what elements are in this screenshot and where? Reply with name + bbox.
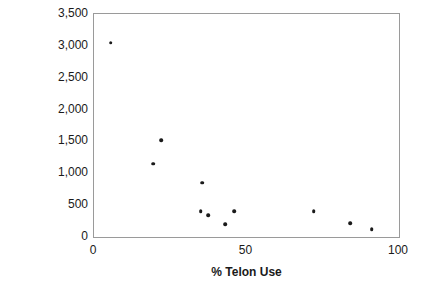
data-point (159, 138, 163, 142)
data-point (370, 227, 374, 231)
x-tick-label: 100 (388, 243, 408, 257)
x-tick-label: 50 (239, 243, 252, 257)
scatter-chart: Effort (hours) 05001,0001,5002,0002,5003… (0, 0, 428, 298)
x-axis-title: % Telon Use (93, 265, 400, 279)
data-point (223, 222, 227, 226)
data-point (109, 41, 113, 45)
y-tick-label: 2,500 (30, 71, 88, 83)
y-tick-label: 0 (30, 230, 88, 242)
data-point (207, 214, 211, 218)
data-point (152, 162, 156, 166)
y-tick-label: 3,500 (30, 7, 88, 19)
y-tick-label: 1,500 (30, 134, 88, 146)
data-point (200, 181, 204, 185)
data-point (312, 209, 316, 213)
y-axis-title: Effort (hours) (0, 0, 22, 298)
data-point (199, 209, 203, 213)
plot-area (93, 13, 400, 238)
data-point (233, 209, 237, 213)
x-tick-label: 0 (90, 243, 97, 257)
y-tick-label: 500 (30, 198, 88, 210)
data-point (348, 222, 352, 226)
y-tick-label: 2,000 (30, 103, 88, 115)
y-tick-label: 3,000 (30, 39, 88, 51)
y-tick-label: 1,000 (30, 166, 88, 178)
x-axis-tick-labels: 050100 (93, 243, 400, 259)
y-axis-tick-labels: 05001,0001,5002,0002,5003,0003,500 (28, 13, 88, 238)
